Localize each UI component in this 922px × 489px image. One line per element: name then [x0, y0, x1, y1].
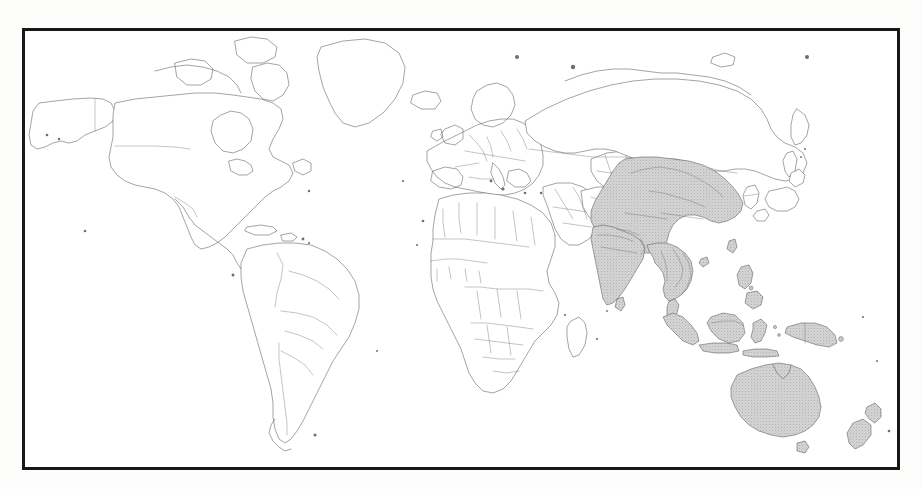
- islet-falklands: [314, 434, 317, 437]
- islet-aleutian-2: [58, 138, 60, 140]
- islet-sicily: [501, 187, 504, 190]
- landmass-japan-honshu: [765, 187, 799, 211]
- islet-cyprus: [540, 192, 542, 194]
- islet-svalbard: [515, 55, 519, 59]
- islet-maluku-2: [778, 334, 781, 337]
- world-map-figure: [0, 0, 922, 489]
- islet-pacific-2: [876, 360, 878, 362]
- islet-sardinia: [490, 180, 493, 183]
- islet-comoros: [564, 314, 566, 316]
- world-map-canvas: [25, 31, 897, 467]
- islet-caribbean-1: [302, 238, 305, 241]
- islet-philippines-visayas: [749, 286, 753, 290]
- islet-hawaii: [84, 230, 87, 233]
- islet-novaya-zemlya: [571, 65, 575, 69]
- islet-crete: [524, 192, 527, 195]
- islet-new-britain: [839, 337, 844, 342]
- islet-kuril-1: [804, 148, 806, 150]
- islet-wrangel: [805, 55, 809, 59]
- islet-maluku-1: [773, 325, 776, 328]
- landmass-lesser-sunda-highlighted: [743, 349, 779, 357]
- islet-aleutian-1: [46, 134, 49, 137]
- islet-kuril-2: [800, 156, 802, 158]
- islet-maldives: [606, 310, 608, 312]
- islet-bermuda: [308, 190, 310, 192]
- map-frame-border: [22, 28, 900, 470]
- landmass-java-highlighted: [699, 343, 739, 353]
- islet-caribbean-2: [308, 242, 310, 244]
- islet-pacific-1: [862, 316, 864, 318]
- islet-cape-verde: [416, 244, 418, 246]
- islet-azores: [402, 180, 404, 182]
- islet-canary: [422, 220, 425, 223]
- islet-south-atlantic: [376, 350, 378, 352]
- islet-mauritius: [596, 338, 598, 340]
- islet-galapagos: [232, 274, 235, 277]
- islet-chatham: [888, 430, 891, 433]
